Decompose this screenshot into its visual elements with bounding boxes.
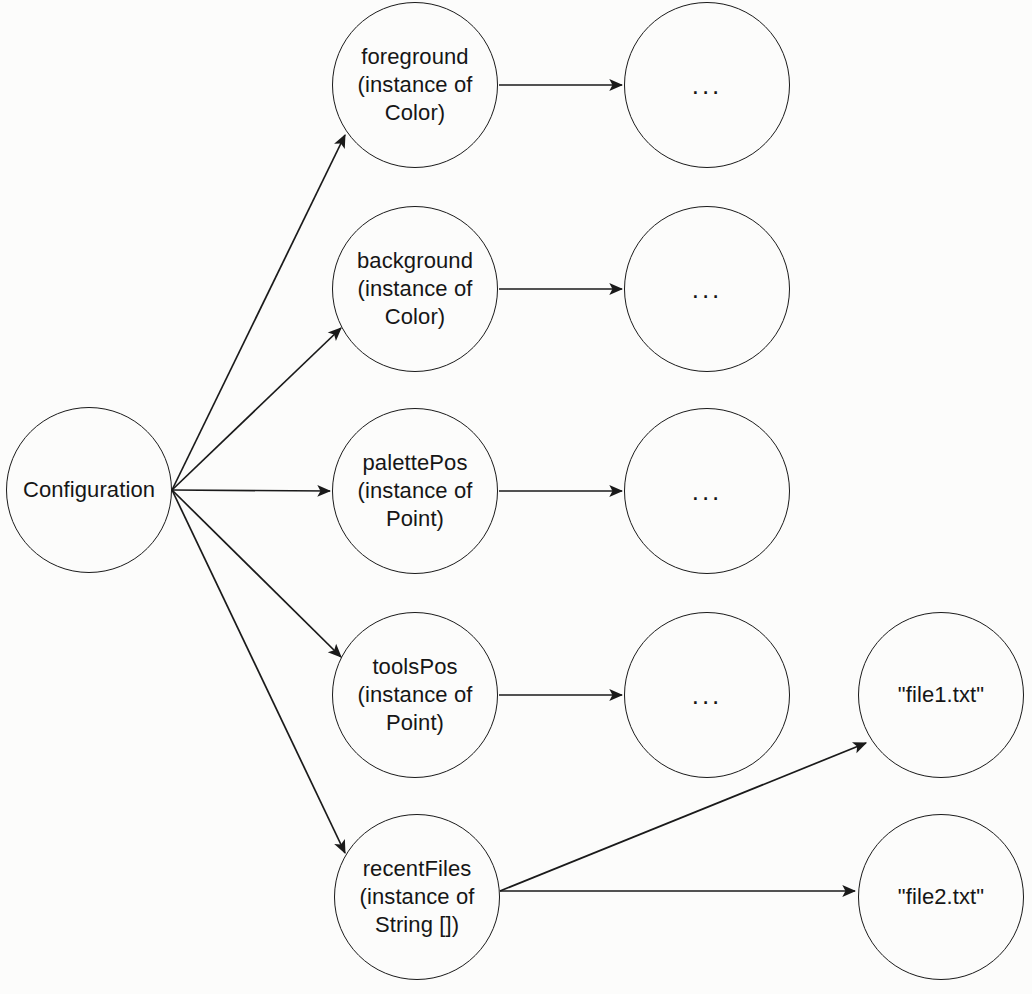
node-ellipsis-background[interactable]: ... xyxy=(624,206,790,372)
node-ellipsis-toolspos-label: ... xyxy=(686,688,729,702)
node-configuration[interactable]: Configuration xyxy=(6,407,172,573)
edge-configuration-to-background xyxy=(172,328,341,490)
node-ellipsis-background-label: ... xyxy=(686,282,729,296)
node-recentfiles-label: recentFiles (instance of String []) xyxy=(354,855,481,939)
node-configuration-label: Configuration xyxy=(17,476,161,504)
edge-configuration-to-foreground xyxy=(172,135,345,490)
node-ellipsis-foreground-label: ... xyxy=(686,78,729,92)
node-ellipsis-toolspos[interactable]: ... xyxy=(624,612,790,778)
node-file2[interactable]: "file2.txt" xyxy=(858,814,1024,980)
node-file1[interactable]: "file1.txt" xyxy=(858,612,1024,778)
edge-configuration-to-palettepos xyxy=(172,490,330,491)
edge-configuration-to-toolspos xyxy=(172,490,341,657)
node-ellipsis-palettepos-label: ... xyxy=(686,484,729,498)
node-recentfiles[interactable]: recentFiles (instance of String []) xyxy=(334,814,500,980)
node-file1-label: "file1.txt" xyxy=(892,681,990,709)
node-file2-label: "file2.txt" xyxy=(892,883,990,911)
node-toolspos-label: toolsPos (instance of Point) xyxy=(352,653,479,737)
node-foreground-label: foreground (instance of Color) xyxy=(352,43,479,127)
node-foreground[interactable]: foreground (instance of Color) xyxy=(332,2,498,168)
edge-configuration-to-recentfiles xyxy=(172,490,345,853)
node-background-label: background (instance of Color) xyxy=(351,247,479,331)
node-toolspos[interactable]: toolsPos (instance of Point) xyxy=(332,612,498,778)
node-background[interactable]: background (instance of Color) xyxy=(332,206,498,372)
node-palettepos-label: palettePos (instance of Point) xyxy=(352,449,479,533)
node-ellipsis-foreground[interactable]: ... xyxy=(624,2,790,168)
node-palettepos[interactable]: palettePos (instance of Point) xyxy=(332,408,498,574)
diagram-canvas: Configuration foreground (instance of Co… xyxy=(0,0,1032,994)
node-ellipsis-palettepos[interactable]: ... xyxy=(624,408,790,574)
